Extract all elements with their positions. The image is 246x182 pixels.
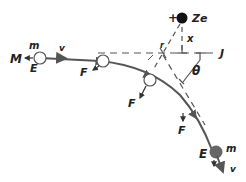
m-final-label: m	[226, 143, 236, 154]
final-velocity-arrow	[217, 156, 223, 172]
E-final-label: E	[199, 147, 208, 161]
r-label: r	[160, 41, 165, 50]
nucleus-sign: +	[168, 11, 178, 25]
v-final-label: v	[230, 164, 237, 174]
F-label-2: F	[128, 97, 136, 110]
F-label-3: F	[178, 124, 186, 137]
particle-position-3	[144, 74, 156, 86]
particle-final	[210, 146, 223, 159]
particle-trajectory	[40, 58, 212, 150]
v-initial-label: v	[59, 43, 66, 53]
nucleus	[177, 13, 188, 24]
M-label: M	[10, 52, 22, 66]
trajectory-arrow-1	[58, 58, 66, 59]
impact-perp-line	[148, 55, 153, 60]
r-distance-line	[153, 24, 180, 70]
theta-label: θ	[192, 64, 200, 78]
force-arrow-3	[140, 86, 146, 98]
F-label-1: F	[80, 66, 88, 79]
E-initial-label: E	[30, 62, 38, 75]
scattering-diagram: + Ze x r θ J M m E v F F F E m v	[0, 0, 246, 182]
J-label: J	[218, 47, 224, 60]
force-arrow-2	[93, 66, 99, 70]
x-label: x	[186, 33, 194, 44]
nucleus-label: Ze	[191, 12, 208, 25]
m-initial-label: m	[29, 40, 39, 51]
particle-position-2	[97, 55, 109, 67]
